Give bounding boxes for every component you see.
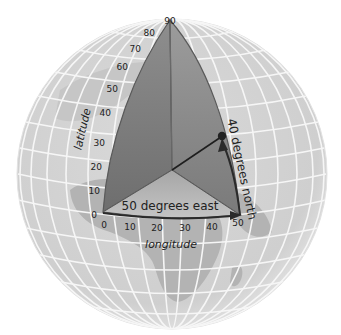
lat-tick: 60 [117, 62, 129, 72]
lat-tick: 10 [89, 186, 101, 196]
lon-tick: 30 [179, 223, 191, 233]
lat-tick: 20 [91, 162, 103, 172]
lat-tick: 80 [144, 28, 156, 38]
longitude-axis-label: longitude [145, 238, 197, 251]
east-annotation: 50 degrees east [122, 199, 219, 213]
lon-tick: 20 [151, 223, 163, 233]
lon-tick: 40 [206, 222, 218, 232]
location-point [218, 132, 226, 140]
lat-tick: 70 [130, 44, 142, 54]
lat-tick: 90 [164, 16, 176, 26]
lat-tick: 50 [107, 84, 119, 94]
globe-diagram: 0 10 20 30 40 50 60 70 80 90 0 10 20 30 … [0, 0, 341, 335]
lat-tick: 40 [100, 108, 112, 118]
lon-tick: 10 [124, 222, 136, 232]
lon-tick: 50 [232, 218, 244, 228]
lat-tick: 0 [91, 210, 97, 220]
lat-tick: 30 [94, 138, 106, 148]
lon-tick: 0 [101, 220, 107, 230]
